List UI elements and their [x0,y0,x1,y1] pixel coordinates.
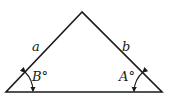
angle-a-label: A° [118,69,135,84]
angle-b-label: B° [31,69,48,84]
triangle-outline [6,12,162,92]
triangle-diagram: a b B° A° [0,0,172,104]
side-a-label: a [32,39,40,54]
angle-a-arc [134,72,143,91]
side-b-label: b [122,39,130,54]
